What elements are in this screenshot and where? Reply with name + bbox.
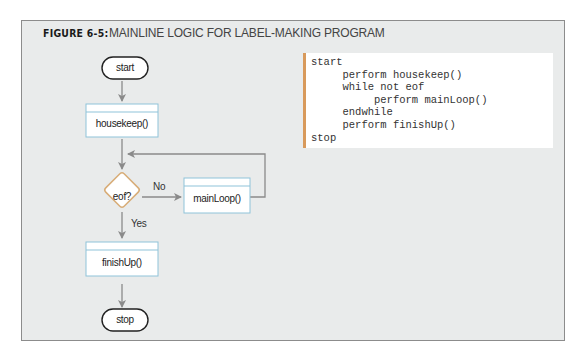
decision-no-label: No [153, 181, 165, 192]
pseudocode-line: start [311, 56, 553, 69]
pseudocode-line: stop [311, 132, 553, 145]
decision-label: eof? [105, 191, 139, 202]
pseudocode-line: endwhile [311, 106, 553, 119]
pseudocode-line: perform housekeep() [311, 69, 553, 82]
pseudocode-line: perform finishUp() [311, 119, 553, 132]
housekeep-box-label: housekeep() [86, 118, 158, 129]
stop-terminal-label: stop [102, 314, 148, 325]
mainloop-box-label: mainLoop() [184, 193, 250, 204]
pseudocode-box: start perform housekeep() while not eof … [303, 53, 553, 148]
pseudocode-line: while not eof [311, 81, 553, 94]
finishup-box-label: finishUp() [86, 257, 158, 268]
decision-diamond-shape [104, 172, 141, 209]
pseudocode-line: perform mainLoop() [311, 94, 553, 107]
decision-yes-label: Yes [131, 218, 146, 229]
start-terminal-label: start [102, 62, 148, 73]
